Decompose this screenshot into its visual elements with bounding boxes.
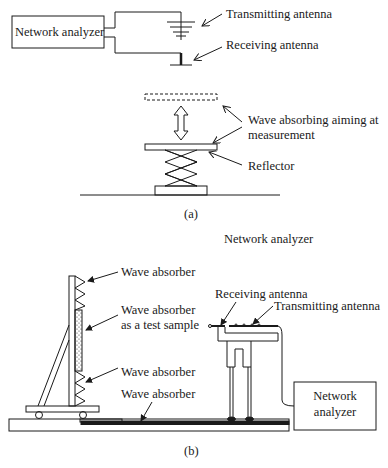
reflector-label: Reflector xyxy=(248,159,295,174)
wave-absorber-bottom-label: Wave absorber xyxy=(121,365,195,380)
wave-absorber-floor-label: Wave absorber xyxy=(121,387,195,402)
receiving-antenna-icon xyxy=(170,53,192,65)
double-arrow-icon xyxy=(174,106,188,140)
receiving-antenna-label-a: Receiving antenna xyxy=(226,38,319,53)
wave-absorbing-label-line2: measurement xyxy=(248,128,315,143)
tx-wire xyxy=(104,12,181,40)
network-analyzer-box-line1: Network xyxy=(294,389,376,404)
rx-wire xyxy=(104,37,181,65)
test-sample-label-line2: as a test sample xyxy=(121,318,199,333)
test-sample xyxy=(75,310,82,371)
figure: Network analyzer Transmitting antenna Re… xyxy=(0,0,388,468)
wave-absorber-top-label: Wave absorber xyxy=(121,265,195,280)
wave-absorber-bottom xyxy=(75,371,85,406)
floor-wave-absorber xyxy=(81,421,289,425)
transmitting-antenna-label-a: Transmitting antenna xyxy=(226,7,332,22)
transmitting-antenna-label-b: Transmitting antenna xyxy=(274,299,380,314)
caption-a: (a) xyxy=(184,207,198,222)
cart-platform xyxy=(26,406,99,412)
network-analyzer-label-a: Network analyzer xyxy=(15,25,104,40)
caption-b: (b) xyxy=(184,444,199,459)
reflector-plate xyxy=(145,144,217,150)
absorber-stand xyxy=(69,276,75,406)
network-analyzer-title-b: Network analyzer xyxy=(224,232,313,247)
network-analyzer-box-line2: analyzer xyxy=(294,405,376,420)
cable xyxy=(278,326,294,406)
sample-raised-position xyxy=(145,94,217,100)
antenna-mount xyxy=(218,327,278,341)
test-sample-label-line1: Wave absorber xyxy=(121,303,195,318)
wave-absorber-top xyxy=(75,276,85,310)
wave-absorbing-label-line1: Wave absorbing aiming at xyxy=(248,113,379,128)
